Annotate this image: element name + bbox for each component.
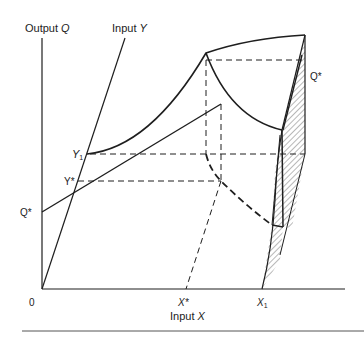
y1-label: Y1 (72, 148, 83, 164)
production-function-diagram (0, 0, 364, 344)
input-x-axis-label: Input X (170, 310, 205, 322)
input-y-axis (42, 38, 125, 289)
qstar-right-label: Q* (310, 71, 322, 83)
input-y-axis-label: Input Y (112, 22, 147, 34)
output-q-axis-label: Output Q (25, 22, 70, 34)
x1-label: X1 (257, 297, 268, 312)
qstar-left-label: Q* (20, 207, 32, 219)
xstar-dashed (186, 181, 221, 289)
isoquant-curve (206, 53, 282, 130)
ystar-label: Y* (64, 176, 75, 188)
xstar-label: X* (178, 297, 189, 309)
qstar-ray (42, 104, 221, 212)
hatched-face (262, 35, 305, 289)
origin-label: 0 (29, 297, 35, 309)
front-edge (282, 130, 283, 227)
projected-isoquant-dashed (206, 154, 272, 225)
